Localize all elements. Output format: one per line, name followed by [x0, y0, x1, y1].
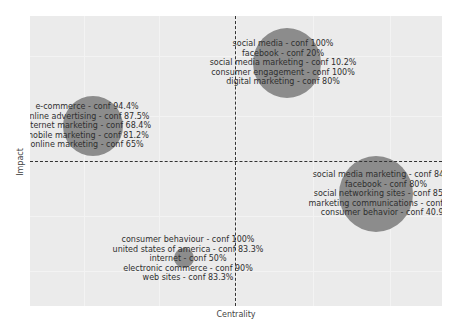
plot-area: social media - conf 100% facebook - conf…: [30, 16, 442, 306]
cluster-label: mobile marketing - conf 81.2%: [30, 131, 151, 141]
impact-divider: [30, 161, 442, 162]
cluster-labels-bottom-left: consumer behaviour - conf 100% united st…: [113, 235, 264, 283]
cluster-labels-top-left: e-commerce - conf 94.4% online advertisi…: [30, 102, 151, 150]
cluster-label: consumer behaviour - conf 100%: [113, 235, 264, 245]
cluster-label: social media marketing - conf 84.7%: [309, 170, 442, 180]
cluster-label: marketing communications - conf 83.3: [309, 199, 442, 209]
cluster-label: digital marketing - conf 80%: [210, 77, 357, 87]
cluster-label: social media marketing - conf 10.2%: [210, 58, 357, 68]
cluster-label: internet marketing - conf 68.4%: [30, 121, 151, 131]
cluster-label: united states of america - conf 83.3%: [113, 245, 264, 255]
cluster-label: internet - conf 50%: [113, 254, 264, 264]
cluster-label: web sites - conf 83.3%: [113, 273, 264, 283]
cluster-label: e-commerce - conf 94.4%: [30, 102, 151, 112]
cluster-label: electronic commerce - conf 90%: [113, 264, 264, 274]
cluster-label: social networking sites - conf 85.2%: [309, 189, 442, 199]
cluster-labels-bottom-right: social media marketing - conf 84.7% face…: [309, 170, 442, 218]
cluster-labels-top-right: social media - conf 100% facebook - conf…: [210, 39, 357, 87]
cluster-label: online marketing - conf 65%: [30, 140, 151, 150]
y-axis-label: Impact: [16, 148, 25, 176]
cluster-label: facebook - conf 80%: [309, 180, 442, 190]
cluster-label: consumer engagement - conf 100%: [210, 68, 357, 78]
cluster-label: facebook - conf 20%: [210, 49, 357, 59]
cluster-label: consumer behavior - conf 40.9%: [309, 208, 442, 218]
cluster-label: social media - conf 100%: [210, 39, 357, 49]
x-axis-label: Centrality: [216, 310, 255, 319]
cluster-label: online advertising - conf 87.5%: [30, 112, 151, 122]
